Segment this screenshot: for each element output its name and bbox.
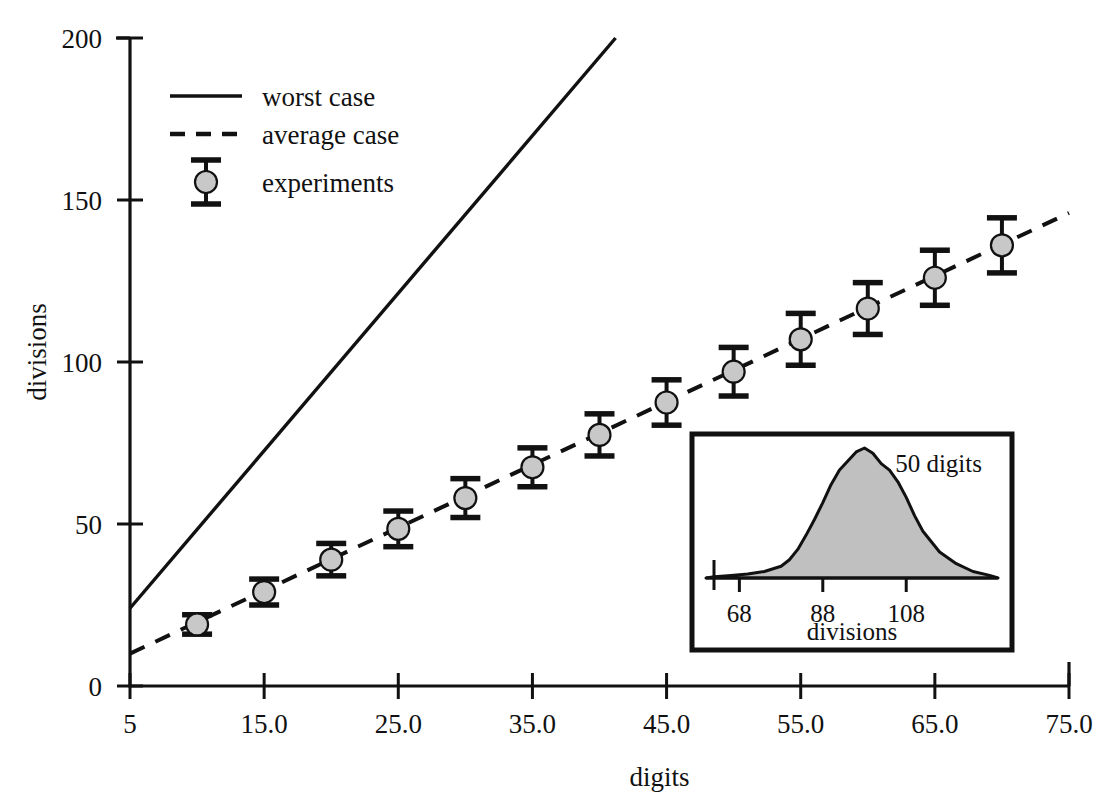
x-tick-label-75: 75.0 xyxy=(1045,709,1092,739)
x-tick-label-35: 35.0 xyxy=(509,709,556,739)
y-tick-label-200: 200 xyxy=(62,24,103,54)
data-point-55 xyxy=(786,313,816,365)
inset-tick-label-68: 68 xyxy=(727,600,752,627)
inset-title: 50 digits xyxy=(895,450,982,477)
y-axis-title: divisions xyxy=(22,303,52,401)
legend-marker-experiments xyxy=(195,171,217,193)
inset-x-axis-title: divisions xyxy=(807,618,897,645)
data-marker xyxy=(656,392,678,414)
data-point-10 xyxy=(182,613,212,635)
x-tick-label-5: 5 xyxy=(123,709,137,739)
data-point-45 xyxy=(652,380,682,425)
legend-label-worst-case: worst case xyxy=(262,82,375,112)
data-point-30 xyxy=(450,479,480,518)
data-marker xyxy=(857,298,879,320)
data-point-25 xyxy=(383,511,413,547)
data-point-50 xyxy=(719,347,749,396)
y-tick-label-50: 50 xyxy=(75,510,102,540)
data-marker xyxy=(387,518,409,540)
data-marker xyxy=(186,613,208,635)
x-tick-label-25: 25.0 xyxy=(375,709,422,739)
y-tick-label-100: 100 xyxy=(62,348,103,378)
data-point-20 xyxy=(316,543,346,575)
data-point-65 xyxy=(920,250,950,305)
data-marker xyxy=(991,234,1013,256)
x-axis-title: digits xyxy=(629,762,689,792)
x-tick-label-45: 45.0 xyxy=(643,709,690,739)
legend-label-experiments: experiments xyxy=(262,168,394,198)
data-point-35 xyxy=(517,448,547,487)
data-marker xyxy=(320,549,342,571)
legend-label-average-case: average case xyxy=(262,120,399,150)
chart-svg: 050100150200515.025.035.045.055.065.075.… xyxy=(0,0,1118,798)
data-marker xyxy=(589,424,611,446)
data-marker xyxy=(924,267,946,289)
data-point-15 xyxy=(249,579,279,605)
data-marker xyxy=(723,361,745,383)
data-point-40 xyxy=(585,414,615,456)
x-tick-label-15: 15.0 xyxy=(241,709,288,739)
data-marker xyxy=(253,581,275,603)
x-tick-label-65: 65.0 xyxy=(911,709,958,739)
y-tick-label-150: 150 xyxy=(62,186,103,216)
y-tick-label-0: 0 xyxy=(89,672,103,702)
data-point-70 xyxy=(987,218,1017,273)
data-marker xyxy=(454,487,476,509)
data-marker xyxy=(521,456,543,478)
data-point-60 xyxy=(853,283,883,335)
data-marker xyxy=(790,328,812,350)
x-tick-label-55: 55.0 xyxy=(777,709,824,739)
figure-root: 050100150200515.025.035.045.055.065.075.… xyxy=(0,0,1118,798)
